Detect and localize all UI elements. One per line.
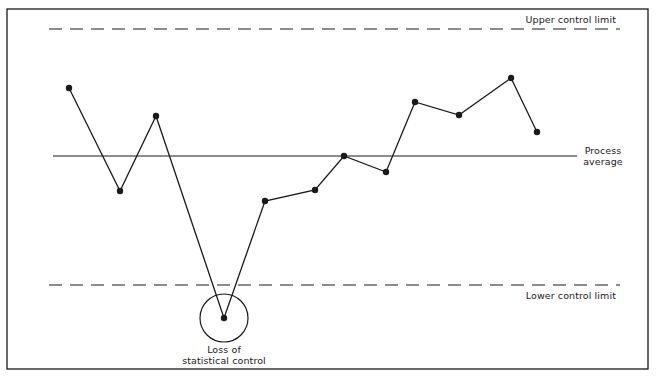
process-average-label-line2: average [573,156,633,167]
data-point [383,169,389,175]
upper-control-limit-label: Upper control limit [525,14,616,25]
data-point [221,315,227,321]
annotation-line1: Loss of [174,344,274,355]
loss-of-control-annotation: Loss of statistical control [174,344,274,366]
control-chart [0,0,656,376]
data-point [153,113,159,119]
data-point [117,188,123,194]
process-average-label-line1: Process [573,145,633,156]
data-point [66,85,72,91]
data-point [456,112,462,118]
data-series-line [69,78,537,318]
chart-frame [7,9,648,369]
data-point [508,75,514,81]
lower-control-limit-label: Lower control limit [526,290,616,301]
data-point [312,187,318,193]
data-point [534,129,540,135]
data-point [262,198,268,204]
annotation-line2: statistical control [174,355,274,366]
data-point [412,99,418,105]
data-point [341,153,347,159]
data-points [66,75,540,321]
process-average-label: Process average [573,145,633,167]
